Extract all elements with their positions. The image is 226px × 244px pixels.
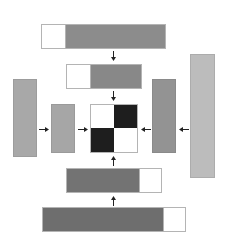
arrow-down-icon bbox=[110, 51, 117, 62]
top-bar-1 bbox=[41, 24, 166, 49]
top-bar-2 bbox=[66, 64, 142, 89]
right-bar-2 bbox=[190, 54, 215, 178]
bottom-bar-2-gray-segment bbox=[43, 208, 163, 231]
arrow-left-icon bbox=[140, 126, 151, 133]
top-bar-1-gray-segment bbox=[66, 25, 165, 48]
top-bar-1-white-segment bbox=[42, 25, 66, 48]
arrow-right-icon bbox=[78, 126, 89, 133]
bottom-bar-1-white-segment bbox=[139, 169, 161, 192]
left-bar-1 bbox=[13, 79, 37, 157]
top-bar-2-gray-segment bbox=[91, 65, 141, 88]
bottom-bar-1 bbox=[66, 168, 162, 193]
checker-cell-top-left bbox=[91, 105, 114, 128]
top-bar-2-white-segment bbox=[67, 65, 91, 88]
center-checkerboard bbox=[90, 104, 138, 153]
arrow-up-icon bbox=[110, 195, 117, 206]
right-bar-1 bbox=[152, 79, 176, 153]
arrow-right-icon bbox=[39, 126, 50, 133]
arrow-down-icon bbox=[110, 91, 117, 102]
arrow-up-icon bbox=[110, 155, 117, 166]
left-bar-2 bbox=[51, 104, 75, 153]
checker-cell-bottom-right bbox=[114, 128, 137, 152]
arrow-left-icon bbox=[178, 126, 189, 133]
bottom-bar-2 bbox=[42, 207, 186, 232]
checker-cell-bottom-left bbox=[91, 128, 114, 152]
bottom-bar-2-white-segment bbox=[163, 208, 185, 231]
bottom-bar-1-gray-segment bbox=[67, 169, 139, 192]
checker-cell-top-right bbox=[114, 105, 137, 128]
